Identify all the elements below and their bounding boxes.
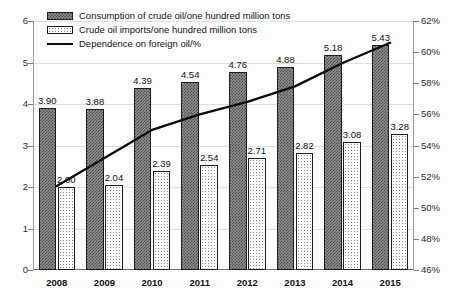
axis-tick-left [28, 63, 33, 64]
data-label-imports: 2.54 [193, 152, 225, 163]
y-axis-right-tick-label: 52% [421, 172, 440, 182]
y-axis-left-tick-label: 1 [23, 224, 28, 234]
y-axis-right-tick-label: 60% [421, 47, 440, 57]
bar-consumption [39, 108, 57, 270]
axis-tick-right [414, 208, 419, 209]
bar-imports [153, 171, 171, 270]
axis-tick-right [414, 52, 419, 53]
data-label-consumption: 3.88 [79, 96, 111, 107]
y-axis-right-tick-label: 56% [421, 109, 440, 119]
legend-item-consumption: Consumption of crude oil/one hundred mil… [47, 9, 290, 22]
data-label-consumption: 5.43 [365, 32, 397, 43]
axis-tick-left [28, 146, 33, 147]
data-label-imports: 2.82 [288, 140, 320, 151]
bar-imports [296, 153, 314, 270]
y-axis-right-tick-label: 46% [421, 265, 440, 275]
bar-consumption [86, 109, 104, 270]
bar-consumption [324, 55, 342, 270]
axis-tick-right [414, 83, 419, 84]
y-axis-right-tick-label: 50% [421, 203, 440, 213]
data-label-imports: 2.39 [146, 158, 178, 169]
legend-label-imports: Crude oil imports/one hundred million to… [79, 24, 257, 35]
data-label-consumption: 5.18 [317, 42, 349, 53]
x-axis-tick-label: 2013 [271, 277, 319, 288]
data-label-consumption: 4.88 [269, 54, 301, 65]
data-label-consumption: 4.54 [174, 69, 206, 80]
data-label-consumption: 4.39 [127, 75, 159, 86]
axis-tick-right [414, 114, 419, 115]
bar-consumption [134, 88, 152, 270]
bar-consumption [181, 82, 199, 270]
legend-swatch-consumption-icon [47, 12, 73, 20]
legend-label-consumption: Consumption of crude oil/one hundred mil… [79, 10, 290, 21]
data-label-consumption: 4.76 [222, 59, 254, 70]
x-axis-tick-label: 2008 [33, 277, 81, 288]
y-axis-right-tick-label: 58% [421, 78, 440, 88]
bar-imports [200, 165, 218, 270]
x-axis-tick-label: 2015 [366, 277, 414, 288]
x-axis-tick-label: 2012 [223, 277, 271, 288]
x-axis-tick-label: 2010 [128, 277, 176, 288]
y-axis-right-tick-label: 48% [421, 234, 440, 244]
data-label-imports: 2.71 [241, 145, 273, 156]
y-axis-left-tick-label: 0 [23, 265, 28, 275]
axis-tick-left [28, 21, 33, 22]
data-label-consumption: 3.90 [31, 95, 63, 106]
bar-imports [248, 158, 266, 270]
bar-imports [391, 134, 409, 270]
axis-tick-left [28, 187, 33, 188]
legend-swatch-line-icon [47, 40, 73, 48]
x-axis-tick-label: 2011 [176, 277, 224, 288]
axis-tick-right [414, 21, 419, 22]
y-axis-left-tick-label: 4 [23, 99, 28, 109]
axis-tick-left [28, 270, 33, 271]
y-axis-left-tick-label: 5 [23, 58, 28, 68]
bar-imports [58, 187, 76, 270]
bar-imports [105, 185, 123, 270]
y-axis-left-tick-label: 3 [23, 141, 28, 151]
legend-item-dependence: Dependence on foreign oil/% [47, 37, 290, 50]
y-axis-right-tick-label: 54% [421, 141, 440, 151]
x-axis-tick-label: 2014 [319, 277, 367, 288]
axis-tick-right [414, 270, 419, 271]
data-label-imports: 3.28 [384, 121, 416, 132]
legend-swatch-imports-icon [47, 26, 73, 34]
legend-label-dependence: Dependence on foreign oil/% [79, 38, 201, 49]
bar-consumption [277, 67, 295, 270]
y-axis-right-tick-label: 62% [421, 16, 440, 26]
crude-oil-chart: 6 5 4 3 2 1 0 62% 60% 58% 56% 54% 52% 50… [0, 0, 454, 299]
y-axis-left-tick-label: 2 [23, 182, 28, 192]
x-axis-tick-label: 2009 [80, 277, 128, 288]
bar-consumption [229, 72, 247, 270]
data-label-imports: 2.04 [98, 172, 130, 183]
y-axis-left-tick-label: 6 [23, 16, 28, 26]
bar-imports [343, 142, 361, 270]
axis-tick-right [414, 239, 419, 240]
axis-tick-right [414, 177, 419, 178]
axis-tick-left [28, 229, 33, 230]
legend-item-imports: Crude oil imports/one hundred million to… [47, 23, 290, 36]
bar-consumption [372, 45, 390, 270]
data-label-imports: 3.08 [336, 129, 368, 140]
data-label-imports: 2.00 [50, 174, 82, 185]
axis-tick-right [414, 146, 419, 147]
chart-legend: Consumption of crude oil/one hundred mil… [47, 9, 290, 51]
